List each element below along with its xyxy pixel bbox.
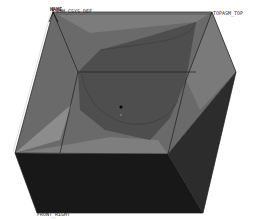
origin-point-icon[interactable] xyxy=(119,105,122,108)
datum-label-top[interactable]: TOPASM_TOP xyxy=(213,10,243,16)
datum-label-bottom[interactable]: FRONT_RIGHT xyxy=(37,211,70,217)
secondary-point-icon xyxy=(120,114,122,116)
datum-label-csys[interactable]: ASM_CSYS_DEF xyxy=(56,8,92,14)
model-geometry[interactable] xyxy=(0,0,253,220)
model-viewport[interactable]: NAME ASM_CSYS_DEF TOPASM_TOP FRONT_RIGHT xyxy=(0,0,253,220)
